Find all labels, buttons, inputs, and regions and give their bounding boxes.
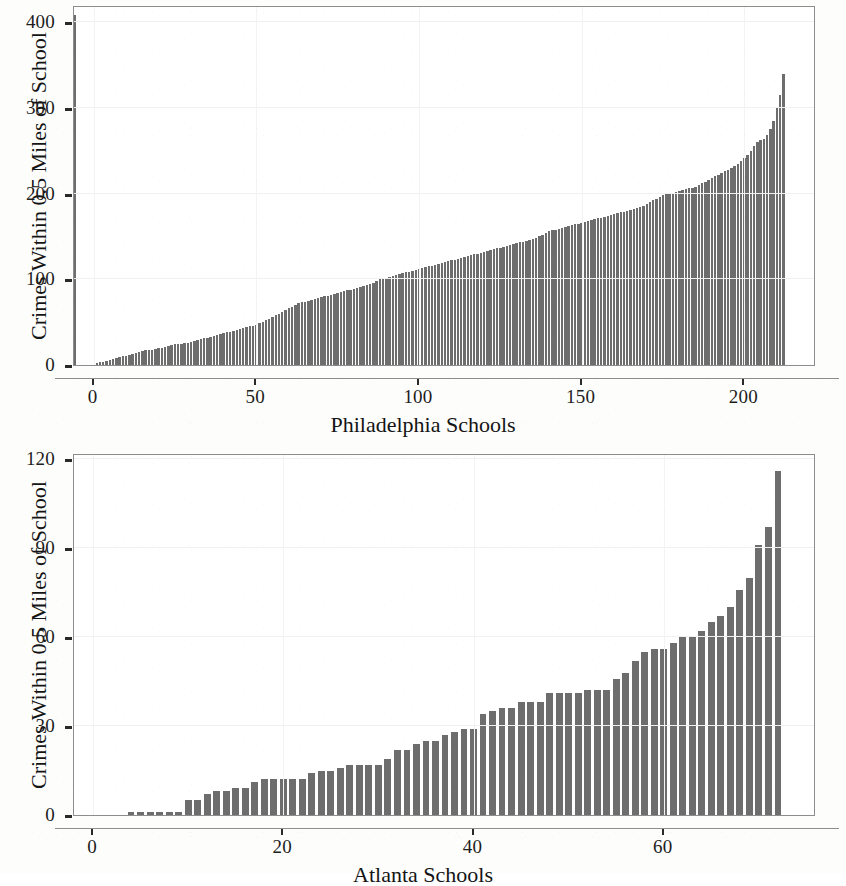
bar [138,352,140,365]
gridline-vertical [93,455,94,815]
bar [759,140,761,365]
y-tick-mark [65,108,72,111]
bar [281,312,283,365]
bar [556,693,563,815]
gridline-vertical [256,7,257,365]
bar [398,274,400,365]
bar [148,350,150,365]
bar [442,735,449,815]
bar [571,225,573,365]
bar [356,288,358,365]
bar [340,292,342,365]
bar [314,299,316,365]
bar [174,344,176,365]
bar [646,204,648,365]
bar [99,362,101,365]
bar [698,185,700,365]
x-axis-title-philadelphia: Philadelphia Schools [0,412,846,438]
bar [196,340,198,365]
bar [232,331,234,365]
bar [122,356,124,365]
bar [636,208,638,365]
bar [626,211,628,365]
bar [551,230,553,365]
bar [112,359,114,365]
panel-philadelphia: Crimes Within 0.5 Miles of School 010020… [0,0,846,436]
bar [415,270,417,365]
bar [597,218,599,365]
bar [775,471,782,815]
x-tick-label: 40 [438,836,508,858]
bar [450,260,452,365]
y-tick-mark [65,459,72,462]
x-tick-label: 20 [247,836,317,858]
bar [385,278,387,365]
bar [711,178,713,365]
bar [170,345,172,365]
bar [651,649,658,815]
bar [177,344,179,365]
x-tick-label: 60 [628,836,698,858]
bar [457,259,459,365]
bar [297,303,299,365]
bar [755,545,762,815]
y-tick-mark [65,365,72,368]
bar [756,142,758,365]
x-tick-mark [417,379,419,385]
bar [404,750,411,815]
bar [183,343,185,365]
bar [379,279,381,365]
bar [587,221,589,365]
bar [489,250,491,365]
bar [765,527,772,815]
bar [454,260,456,365]
bar [509,245,511,365]
bar [577,224,579,365]
bar [318,771,325,816]
bar [506,246,508,365]
bar [545,233,547,365]
bar [365,765,372,815]
bar [558,229,560,365]
bar [753,146,755,365]
x-tick-mark [662,829,664,835]
bar [408,272,410,365]
bar [554,230,556,365]
bar-series-philadelphia [74,7,814,365]
bar [782,74,784,365]
bar [518,702,525,815]
bar [223,791,230,815]
bar [575,693,582,815]
bar [203,338,205,365]
bar [483,252,485,365]
x-tick-label: 100 [383,386,453,408]
y-tick-label: 120 [0,448,55,470]
bar [515,243,517,365]
bar [388,277,390,365]
bar [603,690,610,815]
bar [384,759,391,815]
bar [128,355,130,365]
y-tick-label: 200 [0,183,55,205]
bar [480,714,487,815]
bar [366,285,368,365]
bar [717,175,719,365]
bar [730,168,732,365]
gridline-horizontal [74,636,814,637]
bar [701,183,703,365]
y-tick-label: 90 [0,537,55,559]
y-tick-mark [65,279,72,282]
bar [330,295,332,365]
y-tick-label: 60 [0,626,55,648]
bar [467,256,469,365]
bar [151,350,153,365]
bar [236,330,238,365]
bar [769,129,771,365]
bar [323,296,325,365]
bar [229,332,231,365]
bar [343,291,345,365]
bar [206,338,208,365]
bar [649,202,651,365]
y-tick-mark [65,815,72,818]
x-tick-mark [281,829,283,835]
